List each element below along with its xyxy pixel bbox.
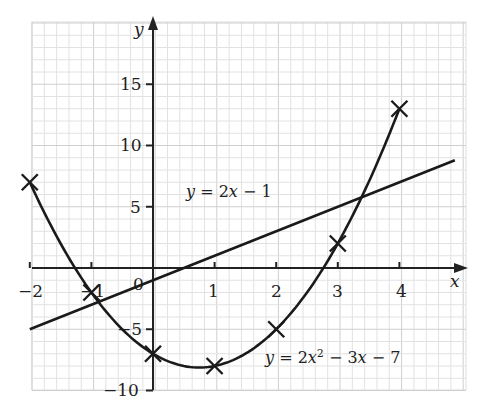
x-tick-label: −2 — [18, 281, 43, 301]
y-tick-label: 10 — [120, 135, 142, 155]
y-axis-label: y — [133, 19, 144, 39]
y-tick-label: 15 — [120, 74, 142, 94]
curve-equation-label: y = 2x2 − 3x − 7 — [264, 347, 400, 367]
x-axis-label: x — [450, 271, 460, 291]
x-tick-label: 1 — [208, 281, 219, 301]
grid — [32, 22, 466, 391]
y-tick-label: −10 — [103, 380, 139, 400]
line-equation-label: y = 2x − 1 — [185, 182, 272, 201]
chart: x y −2 −1 0 1 2 3 4 15 10 5 −5 −10 y = 2… — [0, 0, 478, 415]
y-tick-label: 5 — [130, 197, 141, 217]
x-tick-label: 4 — [396, 281, 407, 301]
x-tick-label: 3 — [332, 281, 343, 301]
x-tick-label: 2 — [271, 281, 282, 301]
